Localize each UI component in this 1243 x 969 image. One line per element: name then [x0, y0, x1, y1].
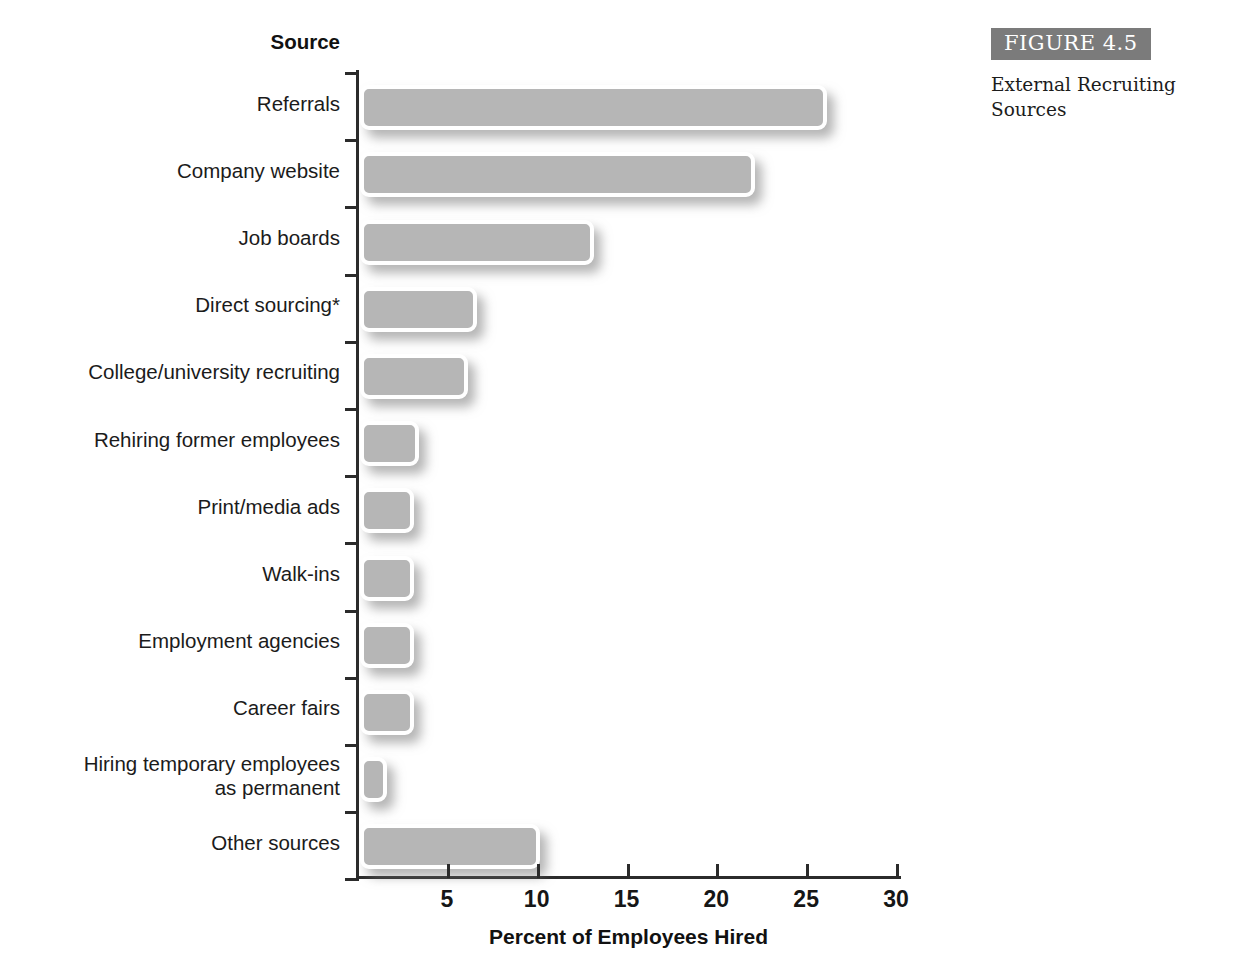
x-axis-tick — [537, 864, 540, 878]
y-axis-tick — [345, 542, 359, 545]
y-axis-title: Source — [0, 30, 340, 54]
bar — [360, 85, 827, 130]
y-axis-tick-label: Company website — [0, 159, 340, 183]
bar — [360, 488, 414, 533]
bar-chart: Source ReferralsCompany websiteJob board… — [0, 0, 960, 969]
y-axis-tick — [345, 341, 359, 344]
y-axis-tick-label: Job boards — [0, 226, 340, 250]
y-axis-tick — [345, 677, 359, 680]
y-axis-tick-label: Print/media ads — [0, 495, 340, 519]
y-axis-tick-label: Career fairs — [0, 696, 340, 720]
figure-number-badge: FIGURE 4.5 — [991, 28, 1151, 60]
bar — [360, 421, 419, 466]
y-axis-tick — [345, 744, 359, 747]
x-axis-tick — [806, 864, 809, 878]
bar — [360, 690, 414, 735]
bar — [360, 152, 755, 197]
x-axis-tick-label: 5 — [417, 886, 477, 913]
figure-title: External Recruiting Sources — [991, 73, 1201, 122]
bar — [360, 824, 540, 869]
x-axis-tick-label: 10 — [507, 886, 567, 913]
bar — [360, 220, 594, 265]
x-axis-tick — [896, 864, 899, 878]
y-axis-tick-label: Employment agencies — [0, 629, 340, 653]
y-axis-tick-label: Hiring temporary employees as permanent — [0, 752, 340, 800]
bar — [360, 757, 387, 802]
y-axis-tick-label: Other sources — [0, 831, 340, 855]
bar — [360, 354, 468, 399]
y-axis-tick — [345, 408, 359, 411]
x-axis-title: Percent of Employees Hired — [356, 925, 901, 949]
x-axis-tick — [447, 864, 450, 878]
y-axis-tick — [345, 274, 359, 277]
x-axis-tick-label: 15 — [597, 886, 657, 913]
x-axis-tick-label: 20 — [686, 886, 746, 913]
y-axis-tick — [345, 475, 359, 478]
y-axis-tick-label: Rehiring former employees — [0, 428, 340, 452]
bar — [360, 287, 477, 332]
x-axis-tick-label: 25 — [776, 886, 836, 913]
y-axis-tick-label: Referrals — [0, 92, 340, 116]
bar — [360, 623, 414, 668]
y-axis-tick — [345, 139, 359, 142]
y-axis-tick-label: College/university recruiting — [0, 360, 340, 384]
x-axis-tick-label: 30 — [866, 886, 926, 913]
y-axis-tick — [345, 610, 359, 613]
y-axis-tick-label: Direct sourcing* — [0, 293, 340, 317]
bar — [360, 556, 414, 601]
x-axis-tick — [627, 864, 630, 878]
y-axis-tick — [345, 206, 359, 209]
y-axis-tick-label: Walk-ins — [0, 562, 340, 586]
y-axis-tick — [345, 72, 359, 75]
y-axis-tick — [345, 811, 359, 814]
figure-caption-block: FIGURE 4.5 External Recruiting Sources — [991, 28, 1231, 122]
x-axis-tick — [716, 864, 719, 878]
y-axis-tick — [345, 878, 359, 881]
